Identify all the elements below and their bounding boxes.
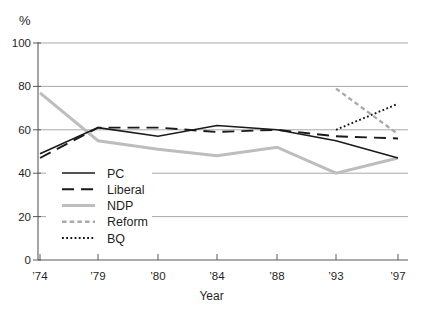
legend-label-ndp: NDP <box>107 199 133 213</box>
x-tick-label: ’84 <box>209 270 225 282</box>
legend-background <box>46 164 152 248</box>
y-tick-label: 100 <box>12 37 31 49</box>
x-tick-label: ’74 <box>32 270 48 282</box>
series-line-ndp <box>40 93 398 173</box>
y-tick-label: 40 <box>18 167 31 179</box>
y-axis-unit-label: % <box>19 13 31 28</box>
y-tick-label: 80 <box>18 80 31 92</box>
x-tick-label: ’79 <box>90 270 105 282</box>
legend-label-pc: PC <box>107 167 124 181</box>
x-tick-label: ’93 <box>328 270 343 282</box>
y-tick-label: 60 <box>18 124 31 136</box>
line-chart: 020406080100’74’79’80’84’88’93’97PCLiber… <box>0 0 423 314</box>
y-tick-label: 0 <box>25 254 31 266</box>
chart-canvas: 020406080100’74’79’80’84’88’93’97PCLiber… <box>0 0 423 314</box>
legend-label-reform: Reform <box>107 215 148 229</box>
x-tick-label: ’97 <box>390 270 405 282</box>
x-axis-title: Year <box>0 289 423 303</box>
legend-label-bq: BQ <box>107 232 125 246</box>
series-line-reform <box>336 89 398 135</box>
x-tick-label: ’80 <box>150 270 165 282</box>
y-tick-label: 20 <box>18 211 31 223</box>
x-tick-label: ’88 <box>269 270 284 282</box>
legend-label-liberal: Liberal <box>107 183 145 197</box>
